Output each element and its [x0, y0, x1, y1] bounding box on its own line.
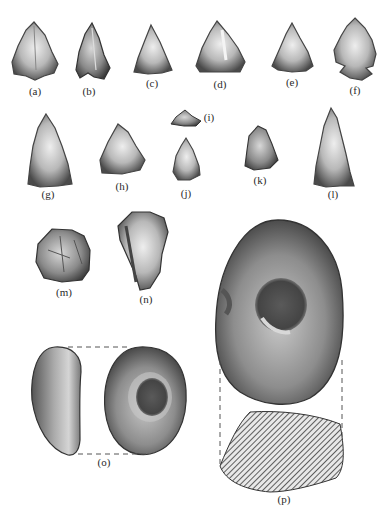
artifact-a: [12, 22, 58, 80]
label-d: (d): [214, 78, 227, 90]
label-f: (f): [350, 84, 361, 96]
label-a: (a): [29, 85, 41, 97]
label-m: (m): [56, 286, 72, 298]
label-e: (e): [286, 76, 298, 88]
artifact-k: [245, 126, 278, 170]
label-g: (g): [42, 188, 55, 200]
artifact-b: [76, 23, 110, 79]
label-o: (o): [98, 456, 111, 468]
label-b: (b): [83, 85, 96, 97]
artifact-g: [28, 114, 72, 187]
artifact-plate: (a) (b) (c) (d) (e) (f) (g) (h) (i) (j) …: [0, 0, 391, 516]
artifact-h: [100, 124, 145, 174]
artifact-e: [272, 23, 313, 72]
label-j: (j): [181, 187, 191, 199]
artifact-d: [196, 21, 245, 72]
label-l: (l): [328, 188, 338, 200]
artifact-o: [32, 347, 187, 455]
artifact-n: [118, 212, 168, 290]
artifact-m: [36, 229, 90, 282]
artifact-p: [216, 220, 344, 492]
label-n: (n): [140, 293, 153, 305]
plate-drawing: [0, 0, 391, 516]
label-h: (h): [116, 180, 129, 192]
label-p: (p): [278, 493, 291, 505]
artifact-j: [173, 138, 200, 180]
artifact-l: [314, 108, 354, 187]
artifact-c: [134, 25, 172, 74]
artifact-i: [171, 110, 201, 126]
artifact-f: [334, 18, 376, 80]
label-k: (k): [254, 174, 267, 186]
label-c: (c): [146, 77, 158, 89]
label-i: (i): [204, 111, 214, 123]
